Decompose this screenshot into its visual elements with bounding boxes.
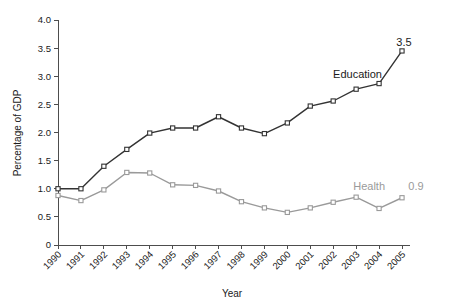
x-tick-label: 1991 <box>64 249 87 272</box>
y-tick-label: 3.0 <box>38 71 51 82</box>
y-tick-label: 3.5 <box>38 43 51 54</box>
y-tick-label: 2.5 <box>38 99 51 110</box>
x-tick-label: 2001 <box>293 249 316 272</box>
x-tick-label: 2002 <box>316 249 339 272</box>
data-point-education-2003 <box>354 87 358 91</box>
y-tick-label: 2.0 <box>38 127 51 138</box>
data-point-health-1999 <box>262 206 266 210</box>
data-point-education-2001 <box>308 104 312 108</box>
data-point-health-2000 <box>285 210 289 214</box>
data-point-health-2002 <box>331 200 335 204</box>
x-tick-label: 1990 <box>41 249 64 272</box>
x-tick-label: 2003 <box>339 249 362 272</box>
x-axis: 1990199119921993199419951996199719981999… <box>41 245 410 271</box>
x-tick-label: 1995 <box>155 249 178 272</box>
x-tick-label: 1997 <box>201 249 224 272</box>
data-point-health-2001 <box>308 206 312 210</box>
line-chart: 00.51.01.52.02.53.03.54.0 19901991199219… <box>0 0 457 303</box>
y-axis-title: Percentage of GDP <box>12 89 23 176</box>
x-axis-title: Year <box>222 288 243 299</box>
data-point-education-1992 <box>102 164 106 168</box>
data-point-health-2003 <box>354 195 358 199</box>
data-point-education-1997 <box>216 115 220 119</box>
data-point-health-1991 <box>79 198 83 202</box>
data-point-education-2000 <box>285 121 289 125</box>
data-point-education-1990 <box>56 187 60 191</box>
data-point-education-1991 <box>79 187 83 191</box>
x-tick-label: 2000 <box>270 249 293 272</box>
x-tick-label: 2004 <box>362 249 385 272</box>
y-tick-label: 1.0 <box>38 183 51 194</box>
y-tick-label: 4.0 <box>38 14 51 25</box>
chart-container: 00.51.01.52.02.53.03.54.0 19901991199219… <box>0 0 457 303</box>
x-tick-label: 1993 <box>109 249 132 272</box>
data-point-education-1994 <box>148 131 152 135</box>
data-point-education-1999 <box>262 132 266 136</box>
data-point-education-1998 <box>239 126 243 130</box>
data-point-education-2002 <box>331 99 335 103</box>
series-label-education: Education <box>333 68 382 80</box>
y-axis: 00.51.01.52.02.53.03.54.0 <box>38 14 58 250</box>
end-value-label-health: 0.9 <box>408 180 423 192</box>
data-point-health-2004 <box>377 206 381 210</box>
x-tick-label: 1999 <box>247 249 270 272</box>
data-point-health-1995 <box>171 183 175 187</box>
y-tick-label: 1.5 <box>38 155 51 166</box>
x-tick-label: 1996 <box>178 249 201 272</box>
data-point-education-1996 <box>194 126 198 130</box>
y-tick-label: 0.5 <box>38 211 51 222</box>
data-point-education-2005 <box>400 49 404 53</box>
x-tick-label: 1992 <box>87 249 110 272</box>
data-point-health-1992 <box>102 188 106 192</box>
x-tick-label: 2005 <box>385 249 408 272</box>
data-point-health-1997 <box>216 189 220 193</box>
data-point-health-1998 <box>239 200 243 204</box>
data-point-health-1990 <box>56 193 60 197</box>
y-tick-label: 0 <box>46 239 51 250</box>
end-value-label-education: 3.5 <box>396 36 411 48</box>
data-point-health-1994 <box>148 171 152 175</box>
data-point-health-1996 <box>194 183 198 187</box>
data-point-education-1993 <box>125 147 129 151</box>
series-line-health <box>58 172 402 212</box>
series-label-health: Health <box>353 180 385 192</box>
x-tick-label: 1998 <box>224 249 247 272</box>
data-point-education-2004 <box>377 81 381 85</box>
annotation-layer: EducationHealth3.50.9 <box>333 36 424 192</box>
data-point-health-1993 <box>125 170 129 174</box>
data-point-health-2005 <box>400 196 404 200</box>
x-tick-label: 1994 <box>132 249 155 272</box>
data-point-education-1995 <box>171 126 175 130</box>
